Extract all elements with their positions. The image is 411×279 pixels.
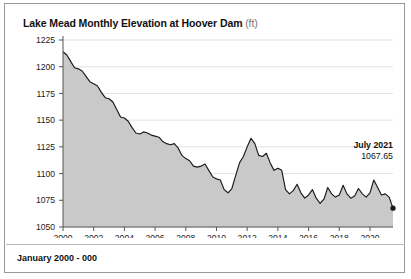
svg-text:1050: 1050 — [36, 222, 55, 232]
svg-text:1175: 1175 — [37, 89, 56, 99]
annotation-end-point-marker — [390, 206, 395, 211]
svg-text:2002: 2002 — [84, 233, 103, 238]
svg-text:2006: 2006 — [146, 233, 165, 238]
svg-text:2008: 2008 — [176, 233, 195, 238]
svg-text:1200: 1200 — [36, 62, 55, 72]
area-fill-group — [63, 52, 393, 227]
svg-text:2018: 2018 — [330, 233, 349, 238]
annotation-value: 1067.65 — [361, 151, 393, 161]
x-axis-ticks: 2000200220042006200820102012201420162018… — [53, 227, 379, 238]
chart-plot-area: 10501075110011251150117512001225 2000200… — [5, 28, 406, 238]
svg-text:1150: 1150 — [37, 115, 56, 125]
svg-text:2020: 2020 — [360, 233, 379, 238]
chart-footer-caption: January 2000 - 000 — [17, 253, 97, 263]
footer-divider — [6, 244, 405, 245]
svg-text:2004: 2004 — [115, 233, 134, 238]
svg-text:2000: 2000 — [53, 233, 72, 238]
svg-text:1075: 1075 — [36, 195, 55, 205]
svg-text:1225: 1225 — [36, 35, 55, 45]
svg-text:2010: 2010 — [207, 233, 226, 238]
y-axis-ticks: 10501075110011251150117512001225 — [36, 35, 63, 232]
svg-text:2016: 2016 — [299, 233, 318, 238]
svg-text:2014: 2014 — [268, 233, 287, 238]
annotation-label: July 2021 — [353, 140, 393, 150]
elevation-area-chart: 10501075110011251150117512001225 2000200… — [5, 28, 406, 238]
svg-text:1125: 1125 — [37, 142, 56, 152]
svg-text:1100: 1100 — [37, 169, 56, 179]
svg-text:2012: 2012 — [238, 233, 257, 238]
chart-card: Lake Mead Monthly Elevation at Hoover Da… — [4, 3, 405, 273]
area-fill — [63, 52, 393, 227]
